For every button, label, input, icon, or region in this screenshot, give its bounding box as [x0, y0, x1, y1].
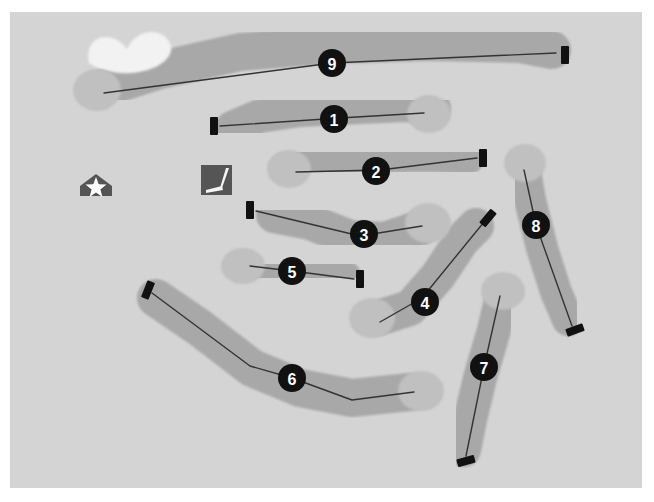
hole-badge-label: 4 — [421, 295, 430, 312]
golf-course-map: 123456789 — [0, 0, 654, 502]
tee-marker-rect — [479, 149, 487, 167]
hole-badge-4[interactable]: 4 — [411, 288, 439, 316]
hole-badge-6[interactable]: 6 — [278, 364, 306, 392]
tee-marker-hole-2[interactable] — [479, 149, 487, 167]
hole-badge-label: 5 — [288, 264, 297, 281]
hole-badge-3[interactable]: 3 — [350, 220, 378, 248]
hole-badge-9[interactable]: 9 — [318, 49, 346, 77]
hole-badge-2[interactable]: 2 — [362, 157, 390, 185]
tee-marker-hole-5[interactable] — [356, 270, 364, 288]
tee-marker-rect — [210, 117, 218, 135]
map-canvas: 123456789 — [0, 0, 654, 502]
tee-marker-rect — [561, 46, 569, 64]
tee-marker-rect — [246, 201, 254, 219]
hole-badge-5[interactable]: 5 — [278, 257, 306, 285]
hole-badge-label: 1 — [330, 112, 339, 129]
hole-badge-label: 3 — [360, 227, 369, 244]
green-hole-5 — [221, 248, 265, 284]
hole-badge-8[interactable]: 8 — [522, 211, 550, 239]
hole-badge-1[interactable]: 1 — [320, 105, 348, 133]
tee-marker-hole-3[interactable] — [246, 201, 254, 219]
hole-badge-7[interactable]: 7 — [470, 353, 498, 381]
hole-badge-label: 8 — [532, 218, 541, 235]
practice-green-marker[interactable] — [201, 165, 232, 195]
hole-badge-label: 9 — [328, 56, 337, 73]
green-hole-6 — [398, 371, 444, 411]
green-hole-7 — [481, 272, 525, 310]
tee-marker-rect — [356, 270, 364, 288]
green-hole-2 — [267, 150, 311, 188]
green-hole-9 — [73, 69, 121, 111]
hole-badge-label: 7 — [480, 360, 489, 377]
fairway-hole-3 — [274, 215, 420, 240]
hole-badge-label: 6 — [288, 371, 297, 388]
tee-marker-hole-9[interactable] — [561, 46, 569, 64]
hole-badge-label: 2 — [372, 164, 381, 181]
tee-marker-hole-1[interactable] — [210, 117, 218, 135]
green-hole-3 — [405, 203, 451, 243]
